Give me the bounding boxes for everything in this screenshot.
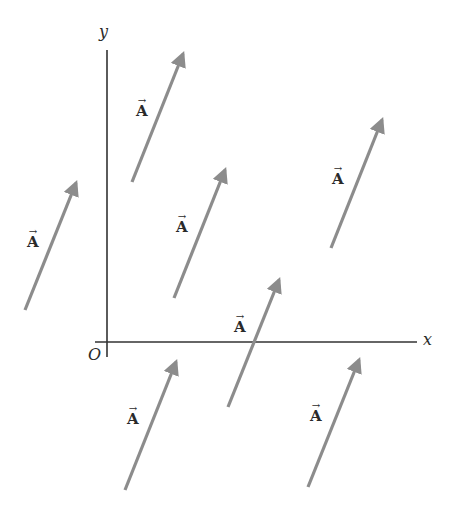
vector-letter: A xyxy=(234,318,246,336)
vector-label-v5: →A xyxy=(234,314,246,335)
vector-letter: A xyxy=(27,233,39,251)
vector-label-v4: →A xyxy=(332,166,344,187)
vector-letter: A xyxy=(332,170,344,188)
diagram-canvas xyxy=(0,0,456,513)
vector-label-v7: →A xyxy=(310,403,322,424)
vector-label-v1: →A xyxy=(136,98,148,119)
vector-label-v3: →A xyxy=(176,214,188,235)
x-axis-label: x xyxy=(423,330,432,349)
vector-arrow-v5 xyxy=(228,280,279,407)
vector-letter: A xyxy=(127,410,139,428)
origin-label: O xyxy=(88,345,101,364)
vector-letter: A xyxy=(176,218,188,236)
vector-letter: A xyxy=(310,407,322,425)
vector-letter: A xyxy=(136,102,148,120)
vector-label-v6: →A xyxy=(127,406,139,427)
y-axis-label: y xyxy=(99,22,108,41)
vector-label-v2: →A xyxy=(27,229,39,250)
